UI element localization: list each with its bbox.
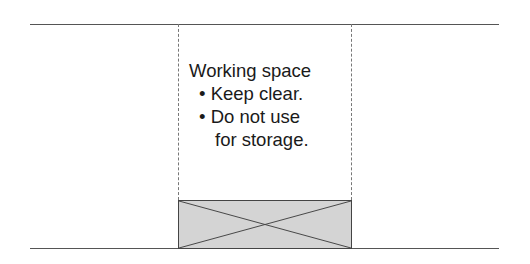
bullet-text: Keep clear. [211,83,304,104]
cross-icon [179,201,351,248]
bullet-item: • Keep clear. [199,82,303,105]
working-space-right-boundary [351,24,352,200]
bullet-text: Do not use [211,106,300,127]
bullet-marker: • [199,83,205,104]
equipment-object [178,200,352,249]
top-wall-line [30,24,499,25]
bullet-marker: • [199,106,205,127]
working-space-left-boundary [178,24,179,200]
bullet-continuation: for storage. [215,128,309,151]
bullet-item: • Do not use [199,105,300,128]
working-space-title: Working space [189,59,311,82]
